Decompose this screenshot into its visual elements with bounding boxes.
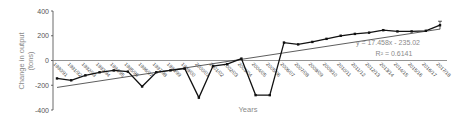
- data-point-marker: [98, 71, 100, 73]
- data-point-marker: [340, 35, 342, 37]
- y-axis-title-unit: (tons): [26, 51, 35, 71]
- data-point-marker: [396, 30, 398, 32]
- linear-trendline: [57, 29, 440, 87]
- data-point-marker: [183, 67, 185, 69]
- data-point-marker: [254, 94, 256, 96]
- data-point-marker: [410, 30, 412, 32]
- data-point-marker: [368, 31, 370, 33]
- x-tick-label: 2011/12: [350, 61, 367, 78]
- data-point-marker: [311, 41, 313, 43]
- y-tick-label: 400: [37, 8, 49, 15]
- data-point-marker: [198, 96, 200, 98]
- data-point-marker: [325, 38, 327, 40]
- y-axis-title: Change in output: [17, 32, 26, 90]
- data-point-marker: [155, 71, 157, 73]
- x-axis-title: Years: [239, 105, 258, 114]
- data-point-marker: [113, 69, 115, 71]
- data-point-marker: [269, 94, 271, 96]
- data-point-marker: [169, 69, 171, 71]
- data-point-marker: [425, 30, 427, 32]
- data-point-marker: [297, 43, 299, 45]
- data-point-marker: [240, 57, 242, 59]
- data-point-marker: [56, 77, 58, 79]
- y-axis: 4002000-200-400: [35, 8, 53, 114]
- trendline: [57, 29, 440, 87]
- data-point-marker: [283, 41, 285, 43]
- data-point-marker: [70, 79, 72, 81]
- x-axis: 1990/911991/921992/931993/941994/951995/…: [52, 61, 452, 79]
- x-tick-label: 2010/11: [336, 61, 353, 78]
- y-tick-label: -400: [35, 107, 49, 114]
- data-point-marker: [226, 63, 228, 65]
- trendline-equation: y = 17.458x - 235.02: [356, 39, 420, 47]
- line-chart: 4002000-200-400 1990/911991/921992/93199…: [0, 0, 457, 123]
- data-point-marker: [84, 74, 86, 76]
- data-point-marker: [354, 33, 356, 35]
- data-point-marker: [127, 70, 129, 72]
- trendline-r-squared: R² = 0.6141: [376, 50, 413, 57]
- x-tick-label: 2017/18: [435, 61, 452, 78]
- data-point-marker: [141, 85, 143, 87]
- y-tick-label: 0: [45, 57, 49, 64]
- y-tick-label: -200: [35, 82, 49, 89]
- chart-canvas: 4002000-200-400 1990/911991/921992/93199…: [0, 0, 457, 123]
- y-tick-label: 200: [37, 32, 49, 39]
- data-point-marker: [382, 29, 384, 31]
- data-point-marker: [212, 65, 214, 67]
